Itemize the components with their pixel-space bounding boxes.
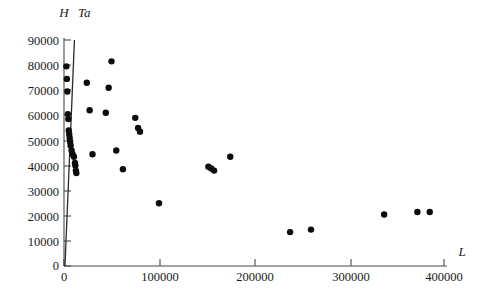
data-point — [156, 200, 162, 206]
x-axis-label: L — [457, 244, 465, 259]
x-tick-labels: 0 100000 200000 300000 400000 — [61, 270, 463, 284]
x-axis-ticks — [64, 259, 444, 266]
y-tick-label: 50000 — [28, 135, 59, 149]
y-tick-label: 30000 — [28, 185, 59, 199]
secondary-axis-label-text: Ta — [78, 5, 91, 20]
data-point — [64, 88, 70, 94]
data-point — [63, 63, 69, 69]
data-point — [414, 209, 420, 215]
data-point — [65, 116, 71, 122]
x-tick-label: 400000 — [425, 270, 463, 284]
data-points-layer — [63, 58, 433, 235]
y-tick-label: 10000 — [28, 235, 59, 249]
y-tick-label: 20000 — [28, 210, 59, 224]
y-axis-label: H — [58, 5, 69, 20]
data-point — [71, 154, 77, 160]
data-point — [103, 110, 109, 116]
x-tick-label: 200000 — [236, 270, 274, 284]
x-tick-label: 0 — [61, 270, 67, 284]
y-tick-label: 40000 — [28, 160, 59, 174]
secondary-axis-label: Ta — [78, 5, 91, 20]
y-tick-label: 0 — [53, 259, 59, 273]
data-point — [211, 167, 217, 173]
scatter-plot-figure: 90000 80000 70000 60000 50000 40000 3000… — [0, 0, 484, 301]
y-tick-label: 60000 — [28, 109, 59, 123]
data-point — [105, 85, 111, 91]
y-tick-label: 70000 — [28, 84, 59, 98]
data-point — [73, 170, 79, 176]
data-point — [108, 58, 114, 64]
data-point — [64, 76, 70, 82]
x-tick-label: 100000 — [141, 270, 179, 284]
y-tick-label: 90000 — [28, 34, 59, 48]
y-tick-label: 80000 — [28, 59, 59, 73]
data-point — [381, 211, 387, 217]
data-point — [287, 229, 293, 235]
data-point — [86, 107, 92, 113]
y-tick-labels: 90000 80000 70000 60000 50000 40000 3000… — [28, 34, 59, 273]
x-tick-label: 300000 — [332, 270, 370, 284]
data-point — [113, 147, 119, 153]
data-point — [427, 209, 433, 215]
data-point — [137, 128, 143, 134]
data-point — [308, 226, 314, 232]
data-point — [227, 154, 233, 160]
data-point — [132, 115, 138, 121]
data-point — [120, 166, 126, 172]
data-point — [89, 151, 95, 157]
data-point — [84, 79, 90, 85]
